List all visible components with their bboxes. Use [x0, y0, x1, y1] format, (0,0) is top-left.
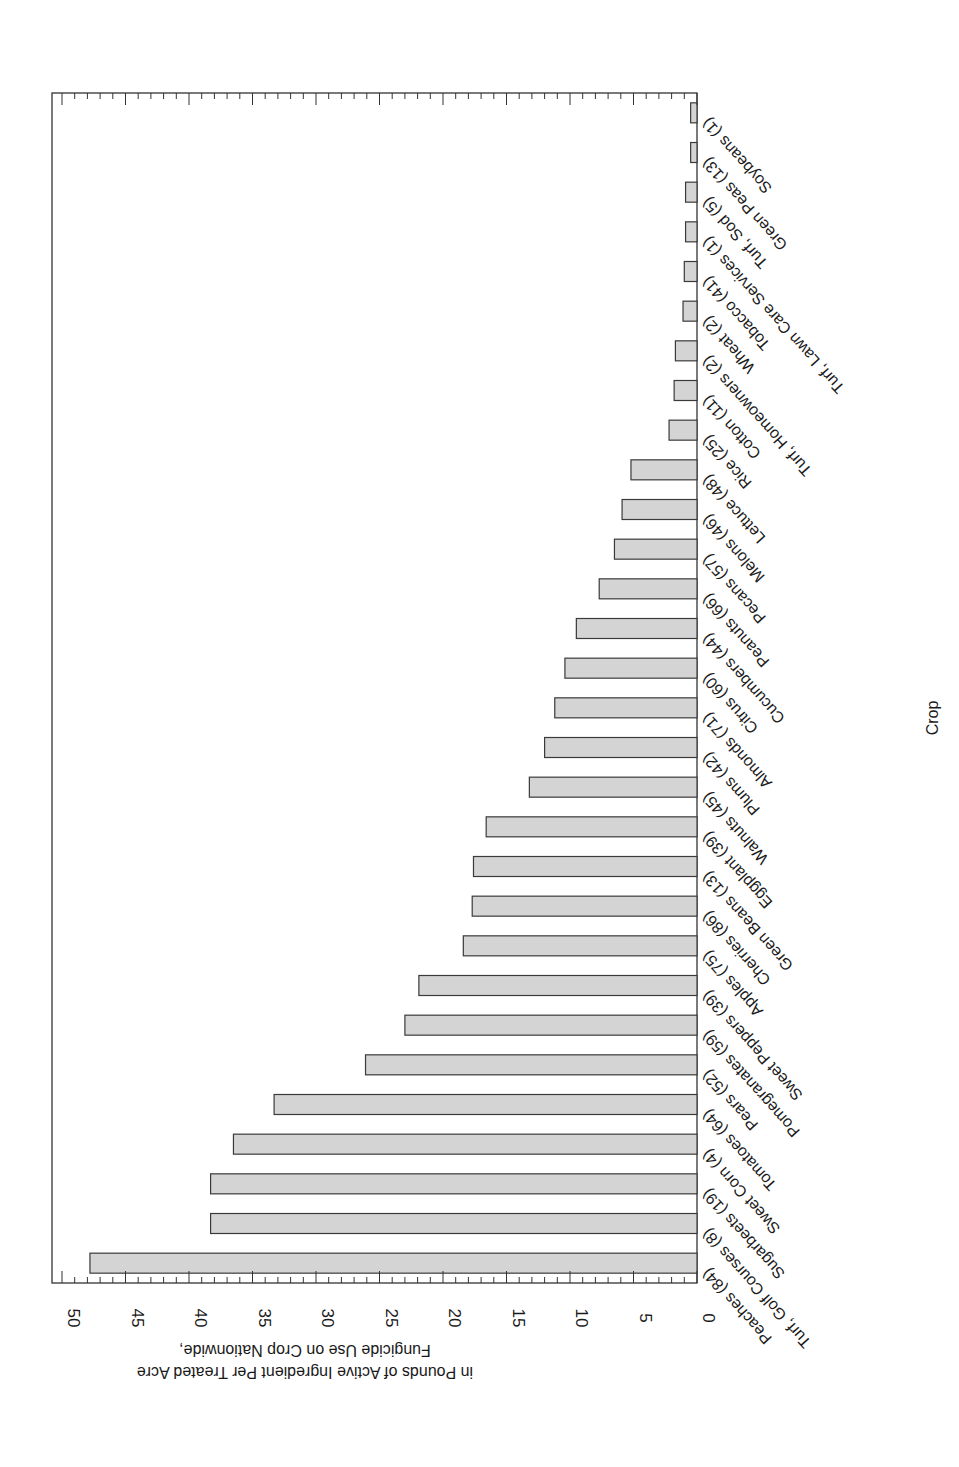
bar: [622, 500, 697, 520]
tick-label: 20: [445, 1309, 464, 1328]
tick-label: 0: [699, 1313, 718, 1322]
tick-label: 30: [318, 1309, 337, 1328]
tick-label: 10: [572, 1309, 591, 1328]
category-axis-title: Crop: [924, 701, 941, 736]
value-axis-title: in Pounds of Active Ingredient Per Treat…: [137, 1342, 473, 1381]
bar: [486, 817, 697, 837]
bar: [473, 857, 697, 877]
bar: [419, 976, 697, 996]
tick-label: 15: [509, 1309, 528, 1328]
bar: [211, 1174, 697, 1194]
bar: [683, 301, 697, 321]
tick-label: 45: [128, 1309, 147, 1328]
bar: [614, 539, 697, 559]
bar: [211, 1214, 697, 1234]
bar: [686, 222, 697, 242]
category-labels: Soybeans (1)Green Peas (13)Turf, Sod (5)…: [699, 115, 848, 1352]
bar: [631, 460, 697, 480]
bar: [691, 103, 697, 123]
value-axis-tick-labels: 05101520253035404550: [64, 1309, 718, 1328]
bar: [545, 738, 697, 758]
bar: [599, 579, 697, 599]
bar: [366, 1055, 697, 1075]
fungicide-bar-chart: 05101520253035404550 Soybeans (1)Green P…: [0, 0, 959, 1467]
tick-label: 35: [255, 1309, 274, 1328]
bar: [463, 936, 697, 956]
tick-label: 25: [382, 1309, 401, 1328]
tick-label: 40: [191, 1309, 210, 1328]
bar: [669, 420, 697, 440]
bar: [274, 1095, 697, 1115]
value-axis-title-line-1: in Pounds of Active Ingredient Per Treat…: [137, 1364, 473, 1381]
tick-label: 5: [636, 1313, 655, 1322]
bar: [675, 341, 697, 361]
bar: [674, 381, 697, 401]
bar: [684, 262, 697, 282]
bar: [576, 619, 697, 639]
bar: [90, 1253, 697, 1273]
bar: [233, 1134, 697, 1154]
bar: [565, 658, 697, 678]
bar: [529, 777, 697, 797]
bar: [555, 698, 697, 718]
bar: [686, 182, 697, 202]
bar: [472, 896, 697, 916]
bar: [691, 143, 697, 163]
bars-group: [90, 103, 697, 1273]
value-axis-title-line-2: Fungicide Use on Crop Nationwide,: [179, 1342, 431, 1359]
bar: [405, 1015, 697, 1035]
tick-label: 50: [64, 1309, 83, 1328]
